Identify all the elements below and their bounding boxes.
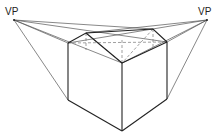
diagram-canvas [0,0,221,134]
perspective-diagram: VP VP [0,0,221,134]
vp-right-point [206,19,208,21]
vp-left-label: VP [5,7,18,17]
left-vp-guides [14,20,167,100]
vp-right-label: VP [198,7,211,17]
right-vp-guides [68,20,207,99]
hidden-edges [68,29,167,63]
vp-left-point [13,19,15,21]
box-edges [68,29,167,131]
